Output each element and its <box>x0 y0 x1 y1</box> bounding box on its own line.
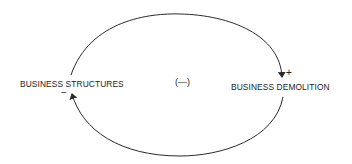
link-structures-to-demolition <box>71 14 282 77</box>
polarity-minus-sign: − <box>61 88 67 98</box>
loop-polarity-label: (—) <box>175 78 190 87</box>
node-business-demolition: BUSINESS DEMOLITION <box>231 83 330 91</box>
polarity-plus-sign: + <box>286 68 292 78</box>
causal-loop-diagram: BUSINESS STRUCTURES BUSINESS DEMOLITION … <box>0 0 352 164</box>
link-demolition-to-structures <box>72 94 283 156</box>
node-business-structures: BUSINESS STRUCTURES <box>20 80 124 88</box>
